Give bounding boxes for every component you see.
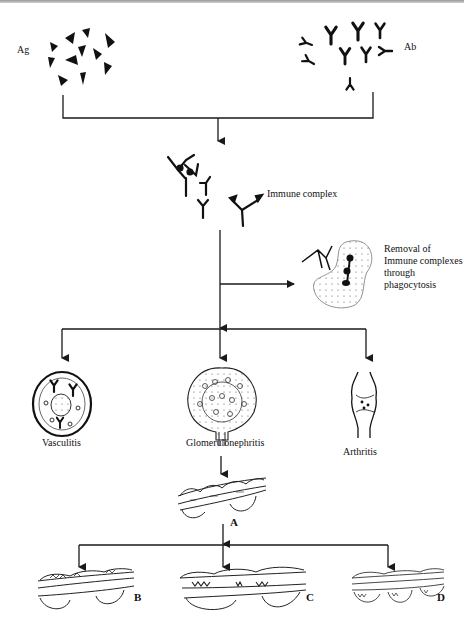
membrane-d-icon <box>352 569 444 603</box>
antibody-cluster-icon <box>300 23 392 90</box>
vasculitis-label: Vasculitis <box>42 437 81 449</box>
stage-connector <box>79 524 388 567</box>
antibody-label: Ab <box>404 41 416 53</box>
joint-icon <box>352 372 377 438</box>
stage-c-label: C <box>306 591 314 603</box>
membrane-b-icon <box>38 569 134 609</box>
membrane-c-icon <box>180 567 306 609</box>
stage-b-label: B <box>134 591 141 603</box>
merge-connector <box>63 92 373 141</box>
stage-d-label: D <box>437 591 445 603</box>
stage-a-label: A <box>230 516 238 528</box>
membrane-a-icon <box>178 478 266 518</box>
immune-complex-icon <box>168 155 262 226</box>
antigen-label: Ag <box>17 44 29 56</box>
antigen-cluster-icon <box>48 28 115 86</box>
removal-label: Removal of Immune complexes through phag… <box>384 243 464 291</box>
phagocyte-icon <box>302 241 372 308</box>
diagram-canvas <box>0 0 464 624</box>
glomerulonephritis-label: Glomerulonephritis <box>186 437 264 449</box>
glomerulus-icon <box>188 368 256 446</box>
arthritis-label: Arthritis <box>343 446 377 458</box>
immune-complex-label: Immune complex <box>267 188 337 200</box>
vasculitis-icon <box>33 372 91 436</box>
